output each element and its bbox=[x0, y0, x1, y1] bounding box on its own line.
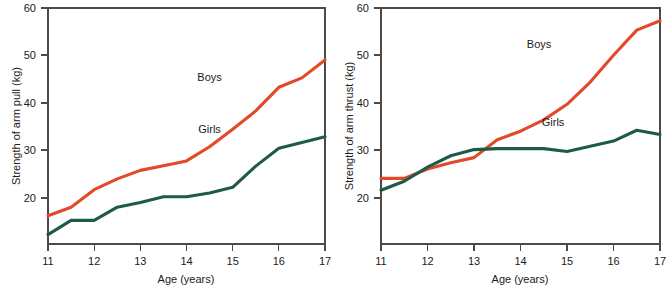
series-label-boys-right: Boys bbox=[527, 38, 552, 50]
series-line-girls-arm-pull bbox=[48, 137, 325, 235]
chart-panel-arm-pull: 60 50 40 30 20 11 12 13 14 15 bbox=[0, 0, 336, 288]
y-tick-label: 60 bbox=[24, 2, 36, 14]
x-tick-label: 17 bbox=[319, 255, 331, 267]
x-tick-label: 11 bbox=[42, 255, 53, 267]
series-line-boys-arm-thrust bbox=[381, 21, 660, 179]
series-line-girls-arm-thrust bbox=[381, 130, 660, 190]
x-axis-title-right: Age (years) bbox=[492, 273, 549, 285]
y-tick-label: 40 bbox=[24, 97, 36, 109]
y-tick-label: 30 bbox=[357, 144, 369, 156]
x-tick-label: 15 bbox=[561, 255, 573, 267]
x-tick-label: 16 bbox=[273, 255, 285, 267]
series-label-boys-left: Boys bbox=[197, 71, 222, 83]
y-axis-title-right: Strength of arm thrust (kg) bbox=[343, 62, 355, 190]
x-axis-tick-labels-right: 11 12 13 14 15 16 17 bbox=[375, 255, 666, 267]
x-tick-label: 13 bbox=[134, 255, 146, 267]
series-label-girls-right: Girls bbox=[542, 116, 565, 128]
x-tick-label: 12 bbox=[421, 255, 433, 267]
x-axis-title-left: Age (years) bbox=[158, 273, 215, 285]
x-axis-tick-labels-left: 11 12 13 14 15 16 17 bbox=[42, 255, 331, 267]
chart-panel-arm-thrust: 60 50 40 30 20 11 12 13 14 15 bbox=[336, 0, 672, 288]
y-axis-ticks-left bbox=[41, 8, 48, 198]
x-tick-label: 12 bbox=[88, 255, 100, 267]
y-tick-label: 40 bbox=[357, 97, 369, 109]
x-axis-ticks-right bbox=[381, 244, 660, 251]
x-tick-label: 14 bbox=[180, 255, 192, 267]
series-label-girls-left: Girls bbox=[198, 123, 221, 135]
x-tick-label: 15 bbox=[227, 255, 239, 267]
plot-frame-left bbox=[48, 8, 325, 244]
y-tick-label: 20 bbox=[357, 192, 369, 204]
x-tick-label: 13 bbox=[468, 255, 480, 267]
y-tick-label: 60 bbox=[357, 2, 369, 14]
x-tick-label: 14 bbox=[514, 255, 526, 267]
y-axis-title-left: Strength of arm pull (kg) bbox=[10, 67, 22, 185]
x-axis-ticks-left bbox=[48, 244, 325, 251]
y-tick-label: 50 bbox=[24, 49, 36, 61]
series-line-boys-arm-pull bbox=[48, 60, 325, 216]
y-axis-tick-labels-right: 60 50 40 30 20 bbox=[357, 2, 369, 204]
y-tick-label: 20 bbox=[24, 192, 36, 204]
x-tick-label: 17 bbox=[654, 255, 666, 267]
plot-frame-right bbox=[381, 8, 660, 244]
y-tick-label: 30 bbox=[24, 144, 36, 156]
y-axis-tick-labels-left: 60 50 40 30 20 bbox=[24, 2, 36, 204]
y-tick-label: 50 bbox=[357, 49, 369, 61]
figure-two-line-charts: 60 50 40 30 20 11 12 13 14 15 bbox=[0, 0, 672, 288]
y-axis-ticks-right bbox=[374, 8, 381, 198]
x-tick-label: 11 bbox=[375, 255, 386, 267]
x-tick-label: 16 bbox=[607, 255, 619, 267]
